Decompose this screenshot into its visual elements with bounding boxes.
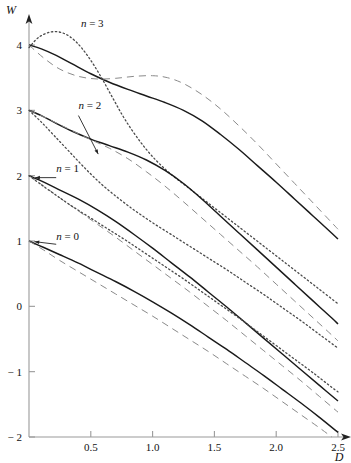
y-tick-label: 2 xyxy=(17,170,23,182)
curve-annotation: n = 3 xyxy=(81,17,104,29)
data-curve xyxy=(29,110,338,341)
y-tick-label: 4 xyxy=(17,39,23,51)
data-curve xyxy=(29,110,338,324)
chart-svg: − 2− 1012340.51.01.52.02.5WDn = 3n = 2n … xyxy=(0,0,351,463)
curve-annotation: n = 0 xyxy=(56,230,79,242)
curve-annotation: n = 2 xyxy=(78,99,101,111)
chart-figure: − 2− 1012340.51.01.52.02.5WDn = 3n = 2n … xyxy=(0,0,351,463)
data-curve xyxy=(29,176,338,413)
x-tick-label: 1.5 xyxy=(208,441,222,453)
leader-n2-head xyxy=(95,149,99,154)
y-axis-title: W xyxy=(6,3,17,17)
curve-annotation-value: = 1 xyxy=(62,162,79,174)
x-tick-label: 0.5 xyxy=(84,441,98,453)
x-axis-title: D xyxy=(334,450,344,463)
data-curve xyxy=(29,176,338,392)
curve-annotation: n = 1 xyxy=(56,162,79,174)
x-tick-label: 1.0 xyxy=(146,441,160,453)
y-tick-label: − 2 xyxy=(8,431,22,443)
y-tick-label: − 1 xyxy=(8,366,22,378)
x-tick-label: 2.0 xyxy=(269,441,283,453)
curve-annotation-value: = 0 xyxy=(62,230,80,242)
curve-annotation-value: = 2 xyxy=(84,99,101,111)
y-tick-label: 0 xyxy=(17,300,23,312)
data-curve xyxy=(29,45,338,239)
data-curve xyxy=(29,176,338,401)
curve-annotation-value: = 3 xyxy=(86,17,104,29)
y-tick-label: 1 xyxy=(17,235,23,247)
y-tick-label: 3 xyxy=(17,104,23,116)
